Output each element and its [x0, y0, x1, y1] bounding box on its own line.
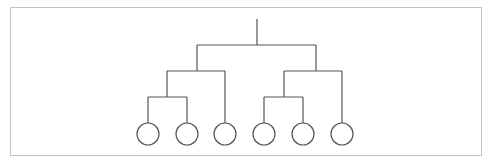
leaf-node-3 [214, 123, 236, 145]
leaf-node-1 [137, 123, 159, 145]
leaf-node-6 [331, 123, 353, 145]
leaf-node-5 [292, 123, 314, 145]
tree-diagram [0, 0, 490, 167]
leaf-node-4 [253, 123, 275, 145]
leaf-node-2 [176, 123, 198, 145]
